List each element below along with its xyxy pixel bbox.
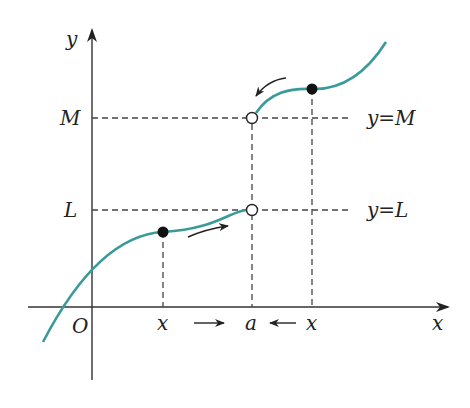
x-axis-label: x [432,311,443,335]
curve-right-branch [256,42,386,113]
y-axis-label: y [65,27,78,51]
a-label: a [245,311,257,335]
open-dot-L [247,205,258,216]
guide-lines [92,89,352,307]
limit-diagram: y x O M L y=M y=L a x x [0,0,470,408]
closed-dot-right [307,84,318,95]
x-right-label: x [306,311,317,335]
line-M-label: y=M [366,106,416,130]
line-L-label: y=L [366,198,408,222]
closed-dot-left [158,227,169,238]
origin-label: O [72,314,88,338]
L-label: L [63,198,77,222]
open-dot-M [247,113,258,124]
diagram-svg: y x O M L y=M y=L a x x [0,0,470,408]
M-label: M [59,106,81,130]
x-left-label: x [157,311,168,335]
